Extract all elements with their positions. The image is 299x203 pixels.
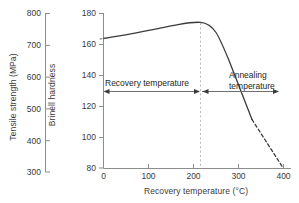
annealing-annotation-line1: Annealing bbox=[229, 70, 275, 81]
x-tick-0: 0 bbox=[84, 171, 124, 181]
tensile-tick-800: 800 bbox=[7, 8, 41, 18]
x-tick-300: 300 bbox=[219, 171, 259, 181]
brinell-tick-140: 140 bbox=[66, 70, 96, 80]
brinell-tick-100: 100 bbox=[66, 132, 96, 142]
brinell-axis-title: Brinell hardness bbox=[47, 35, 57, 155]
x-tick-100: 100 bbox=[129, 171, 169, 181]
brinell-axis-ticks bbox=[99, 14, 104, 169]
x-tick-200: 200 bbox=[174, 171, 214, 181]
annealing-temperature-annotation: Annealing temperature bbox=[229, 70, 275, 91]
x-axis-title: Recovery temperature (°C) bbox=[103, 186, 289, 196]
tensile-tick-600: 600 bbox=[7, 72, 41, 82]
recovery-temperature-annotation: Recovery temperature bbox=[105, 78, 189, 89]
brinell-tick-160: 160 bbox=[66, 39, 96, 49]
recovery-range-arrow bbox=[104, 89, 201, 94]
tensile-tick-400: 400 bbox=[7, 136, 41, 146]
tensile-tick-700: 700 bbox=[7, 40, 41, 50]
brinell-tick-120: 120 bbox=[66, 101, 96, 111]
hardness-curve-dashed-tail bbox=[252, 120, 283, 168]
brinell-tick-180: 180 bbox=[66, 8, 96, 18]
tensile-tick-300: 300 bbox=[7, 167, 41, 177]
x-tick-400: 400 bbox=[264, 171, 299, 181]
annealing-annotation-line2: temperature bbox=[229, 81, 275, 92]
tensile-tick-500: 500 bbox=[7, 104, 41, 114]
x-axis-ticks bbox=[104, 164, 284, 169]
chart-figure: Tensile strength (MPa) Brinell hardness … bbox=[0, 0, 298, 203]
